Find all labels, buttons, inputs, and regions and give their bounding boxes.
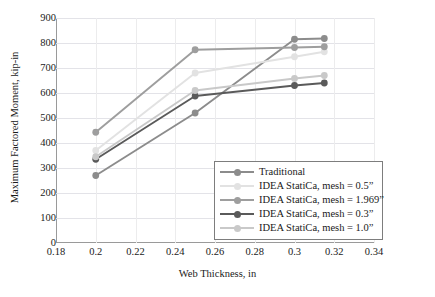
series-marker xyxy=(192,110,199,117)
legend-marker-dot xyxy=(234,183,241,190)
y-axis-tick-label: 900 xyxy=(10,13,56,23)
series-marker xyxy=(192,87,199,94)
y-axis-title: Maximum Factored Moment, kip-in xyxy=(9,28,20,228)
series-marker xyxy=(92,172,99,179)
series-marker xyxy=(92,147,99,154)
legend-item[interactable]: IDEA StatiCa, mesh = 1.0” xyxy=(220,221,377,235)
series-marker xyxy=(192,46,199,53)
series-marker xyxy=(321,35,328,42)
legend-swatch xyxy=(220,180,254,192)
legend-marker-dot xyxy=(234,225,241,232)
series-marker xyxy=(321,43,328,50)
legend-swatch xyxy=(220,166,254,178)
legend-label: Traditional xyxy=(259,166,305,178)
series-line xyxy=(96,39,325,176)
series-marker xyxy=(291,75,298,82)
legend-swatch xyxy=(220,222,254,234)
legend-marker-dot xyxy=(234,169,241,176)
series-marker xyxy=(192,70,199,77)
legend-marker-dot xyxy=(234,211,241,218)
series-marker xyxy=(92,129,99,136)
legend-item[interactable]: Traditional xyxy=(220,165,377,179)
chart-container: 0100200300400500600700800900 0.180.20.22… xyxy=(0,0,435,297)
chart-legend: TraditionalIDEA StatiCa, mesh = 0.5”IDEA… xyxy=(214,161,383,240)
series-marker xyxy=(321,80,328,87)
series-line xyxy=(96,76,325,157)
legend-label: IDEA StatiCa, mesh = 1.0” xyxy=(259,222,373,234)
legend-label: IDEA StatiCa, mesh = 0.5” xyxy=(259,180,373,192)
legend-label: IDEA StatiCa, mesh = 0.3” xyxy=(259,208,373,220)
legend-label: IDEA StatiCa, mesh = 1.969” xyxy=(259,194,384,206)
legend-marker-dot xyxy=(234,197,241,204)
x-axis-tick-label: 0.34 xyxy=(351,246,397,257)
series-line xyxy=(96,83,325,159)
legend-swatch xyxy=(220,194,254,206)
legend-swatch xyxy=(220,208,254,220)
series-marker xyxy=(291,44,298,51)
x-axis-title: Web Thickness, in xyxy=(0,268,435,279)
legend-item[interactable]: IDEA StatiCa, mesh = 0.3” xyxy=(220,207,377,221)
series-marker xyxy=(92,153,99,160)
series-marker xyxy=(321,72,328,79)
series-marker xyxy=(291,53,298,60)
series-marker xyxy=(291,36,298,43)
series-marker xyxy=(291,82,298,89)
legend-item[interactable]: IDEA StatiCa, mesh = 0.5” xyxy=(220,179,377,193)
legend-item[interactable]: IDEA StatiCa, mesh = 1.969” xyxy=(220,193,377,207)
